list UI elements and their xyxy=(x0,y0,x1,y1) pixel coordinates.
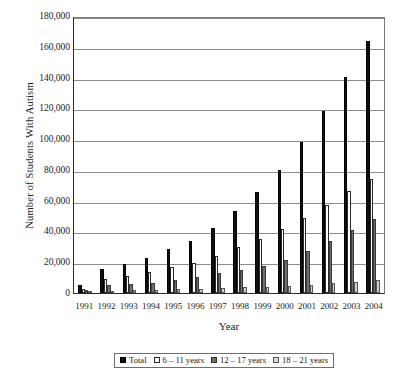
bar-group xyxy=(229,18,251,293)
y-tick-label: 160,000 xyxy=(22,43,70,53)
bar-group xyxy=(185,18,207,293)
legend-item: 12 – 17 years xyxy=(211,356,266,365)
bar xyxy=(310,285,313,293)
y-tick-label: 40,000 xyxy=(22,228,70,238)
bar-group xyxy=(140,18,162,293)
bar-group xyxy=(96,18,118,293)
legend-swatch-icon xyxy=(273,357,279,363)
bar-groups xyxy=(74,18,384,293)
plot-area xyxy=(73,17,385,294)
bar xyxy=(376,280,379,293)
bar xyxy=(221,288,224,293)
legend-label: 12 – 17 years xyxy=(220,356,266,365)
y-axis-tick-labels: 180,000160,000140,000120,000100,00080,00… xyxy=(22,11,70,299)
legend-item: 6 – 11 years xyxy=(154,356,204,365)
bar-group xyxy=(207,18,229,293)
legend-item: Total xyxy=(120,356,147,365)
x-tick-label: 2004 xyxy=(363,298,385,314)
x-tick-label: 2003 xyxy=(340,298,362,314)
bar-group xyxy=(273,18,295,293)
legend-label: Total xyxy=(129,356,147,365)
bar-group xyxy=(340,18,362,293)
bar xyxy=(266,287,269,293)
bar-group xyxy=(118,18,140,293)
legend-item: 18 – 21 years xyxy=(273,356,328,365)
y-tick-label: 20,000 xyxy=(22,258,70,268)
y-tick-label: 100,000 xyxy=(22,135,70,145)
x-tick-label: 1997 xyxy=(207,298,229,314)
bar xyxy=(199,289,202,293)
x-tick-label: 1996 xyxy=(184,298,206,314)
x-tick-label: 1995 xyxy=(162,298,184,314)
bar-chart: Number of Students With Autism 180,00016… xyxy=(0,0,399,382)
y-tick-label: 0 xyxy=(22,289,70,299)
legend-swatch-icon xyxy=(154,357,160,363)
y-tick-label: 180,000 xyxy=(22,12,70,22)
bar-group xyxy=(295,18,317,293)
bar-group xyxy=(362,18,384,293)
bar-group xyxy=(74,18,96,293)
bar xyxy=(155,290,158,293)
y-tick-label: 80,000 xyxy=(22,166,70,176)
y-tick-label: 60,000 xyxy=(22,197,70,207)
x-tick-label: 1992 xyxy=(95,298,117,314)
legend-label: 6 – 11 years xyxy=(163,356,204,365)
bar-group xyxy=(251,18,273,293)
y-tick-label: 120,000 xyxy=(22,105,70,115)
x-tick-label: 1993 xyxy=(118,298,140,314)
x-tick-label: 1991 xyxy=(73,298,95,314)
bar xyxy=(332,283,335,293)
bar-group xyxy=(318,18,340,293)
x-tick-label: 1998 xyxy=(229,298,251,314)
bar xyxy=(354,282,357,293)
bar-group xyxy=(163,18,185,293)
bar xyxy=(177,289,180,293)
legend-swatch-icon xyxy=(211,357,217,363)
bar xyxy=(111,291,114,293)
x-tick-label: 2002 xyxy=(318,298,340,314)
bar xyxy=(133,290,136,293)
legend-swatch-icon xyxy=(120,357,126,363)
x-axis-tick-labels: 1991199219931994199519961997199819992000… xyxy=(73,298,385,314)
chart-legend: Total6 – 11 years12 – 17 years18 – 21 ye… xyxy=(114,353,334,368)
x-tick-label: 1994 xyxy=(140,298,162,314)
x-tick-label: 2001 xyxy=(296,298,318,314)
bar xyxy=(243,287,246,293)
x-tick-label: 1999 xyxy=(251,298,273,314)
x-tick-label: 2000 xyxy=(274,298,296,314)
legend-label: 18 – 21 years xyxy=(282,356,328,365)
bar xyxy=(288,286,291,293)
y-tick-label: 140,000 xyxy=(22,74,70,84)
bar xyxy=(88,291,91,293)
x-axis-title: Year xyxy=(73,320,385,332)
